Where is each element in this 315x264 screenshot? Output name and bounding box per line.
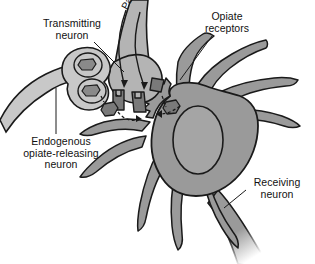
opiate-molecule-in-vesicle-lower bbox=[82, 85, 100, 96]
receiving-neuron-axon bbox=[208, 190, 272, 264]
endogenous-neuron bbox=[0, 48, 110, 132]
receptor-peg-right bbox=[150, 78, 164, 92]
receiving-neuron-nucleus bbox=[173, 106, 223, 174]
label-endogenous-opiate-releasing-neuron: Endogenous opiate-releasing neuron bbox=[6, 136, 116, 171]
label-transmitting-neuron: Transmitting neuron bbox=[26, 18, 118, 41]
label-opiate-receptors: Opiate receptors bbox=[185, 11, 269, 34]
label-receiving-neuron: Receiving neuron bbox=[241, 177, 313, 200]
transmitting-neuron bbox=[109, 0, 164, 112]
opiate-molecule-in-vesicle-upper bbox=[78, 59, 96, 70]
opiate-molecule-free-left bbox=[101, 102, 118, 116]
